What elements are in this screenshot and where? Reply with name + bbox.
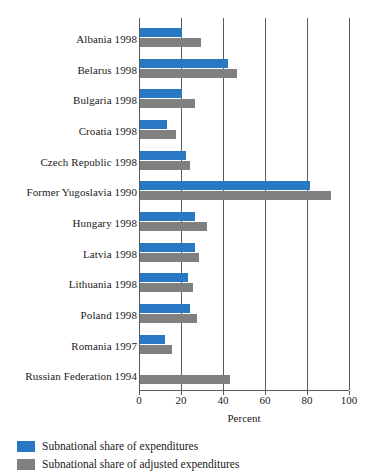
legend-item: Subnational share of adjusted expenditur…	[17, 455, 367, 473]
bar	[140, 181, 310, 190]
gridline-80	[307, 22, 308, 390]
y-axis-label: Belarus 1998	[0, 64, 137, 76]
legend-label: Subnational share of expenditures	[42, 440, 198, 453]
bar	[140, 59, 228, 68]
x-tick-label-60: 60	[260, 394, 271, 407]
y-axis-label: Hungary 1998	[0, 217, 137, 229]
x-tick-label-0: 0	[136, 394, 142, 407]
plot-area	[139, 22, 349, 390]
x-tick-mark-top-60	[265, 18, 266, 22]
x-axis-line	[139, 390, 349, 391]
y-axis-label: Russian Federation 1994	[0, 370, 137, 382]
bar	[140, 335, 165, 344]
x-tick-label-40: 40	[218, 394, 229, 407]
bar	[140, 212, 195, 221]
bar	[140, 345, 172, 354]
bar	[140, 120, 167, 129]
bar	[140, 161, 190, 170]
bar	[140, 89, 182, 98]
y-axis-category-labels: Albania 1998Belarus 1998Bulgaria 1998Cro…	[0, 22, 137, 390]
y-axis-label: Albania 1998	[0, 33, 137, 45]
x-tick-label-80: 80	[302, 394, 313, 407]
legend-swatch-icon	[17, 459, 35, 470]
legend-swatch-icon	[17, 441, 35, 452]
bar	[140, 304, 190, 313]
x-tick-mark-top-20	[181, 18, 182, 22]
x-axis-title: Percent	[139, 412, 349, 425]
x-tick-mark-top-40	[223, 18, 224, 22]
bar	[140, 243, 195, 252]
x-tick-mark-top-80	[307, 18, 308, 22]
y-axis-label: Czech Republic 1998	[0, 156, 137, 168]
bar	[140, 273, 188, 282]
gridline-100	[349, 22, 350, 390]
y-axis-label: Romania 1997	[0, 340, 137, 352]
y-axis-label: Latvia 1998	[0, 248, 137, 260]
x-tick-label-20: 20	[176, 394, 187, 407]
x-tick-mark-top-0	[139, 18, 140, 22]
x-tick-mark-top-100	[349, 18, 350, 22]
y-axis-label: Bulgaria 1998	[0, 94, 137, 106]
bar-chart-figure: Albania 1998Belarus 1998Bulgaria 1998Cro…	[0, 0, 381, 475]
bar	[140, 151, 186, 160]
y-axis-label: Lithuania 1998	[0, 278, 137, 290]
bar	[140, 375, 230, 384]
bar	[140, 28, 182, 37]
bar	[140, 69, 237, 78]
legend-label: Subnational share of adjusted expenditur…	[42, 458, 239, 471]
bar	[140, 130, 176, 139]
y-axis-label: Former Yugoslavia 1990	[0, 186, 137, 198]
bar	[140, 283, 193, 292]
bar	[140, 191, 331, 200]
y-axis-label: Croatia 1998	[0, 125, 137, 137]
gridline-60	[265, 22, 266, 390]
bar	[140, 222, 207, 231]
bar	[140, 253, 199, 262]
bar	[140, 38, 201, 47]
legend-item: Subnational share of expenditures	[17, 437, 367, 455]
x-axis-tick-labels: 020406080100	[139, 394, 349, 410]
chart-legend: Subnational share of expendituresSubnati…	[17, 437, 367, 473]
bar	[140, 99, 195, 108]
y-axis-label: Poland 1998	[0, 309, 137, 321]
bar	[140, 314, 197, 323]
x-tick-label-100: 100	[341, 394, 358, 407]
